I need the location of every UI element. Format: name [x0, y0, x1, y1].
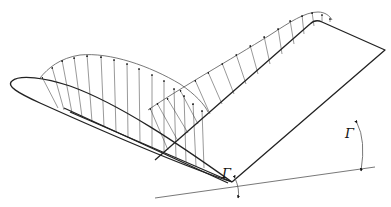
lift-arrow-icon	[101, 56, 104, 127]
gamma-label-right: Γ	[344, 126, 355, 141]
lift-arrow-icon	[184, 95, 186, 162]
lift-arrow-icon	[208, 72, 222, 104]
lift-arrow-icon	[139, 68, 140, 143]
lift-arrow-icon	[250, 45, 258, 74]
ground-reference-line	[155, 167, 375, 198]
lift-arrow-icon	[74, 57, 82, 117]
lift-arrow-icon	[236, 54, 246, 84]
lift-arrow-icon	[222, 63, 234, 94]
right-wing-outline	[155, 21, 385, 182]
lift-arrow-icon	[174, 88, 176, 158]
gamma-label-left: Γ	[221, 166, 232, 181]
left-wing-airfoil	[10, 77, 232, 182]
lift-arrow-icon	[312, 12, 314, 26]
dihedral-angle-right: Γ	[344, 123, 363, 171]
angle-arc-right	[357, 123, 363, 171]
angle-arc-left	[235, 178, 239, 198]
left-lift-envelope	[40, 55, 208, 112]
lift-arrow-icon	[114, 59, 116, 132]
lift-arrow-icon	[52, 67, 64, 110]
dihedral-angle-left: Γ	[221, 166, 239, 198]
right-lift-envelope	[148, 12, 332, 110]
lift-arrow-icon	[195, 80, 210, 114]
lift-arrow-icon	[127, 63, 128, 137]
lift-arrow-icon	[87, 55, 92, 122]
left-wing	[10, 77, 232, 183]
right-wing	[155, 21, 385, 182]
lift-arrow-icon	[180, 90, 198, 124]
left-wing-lower-edge	[70, 112, 232, 182]
dihedral-wing-diagram: Γ Γ	[0, 0, 391, 207]
